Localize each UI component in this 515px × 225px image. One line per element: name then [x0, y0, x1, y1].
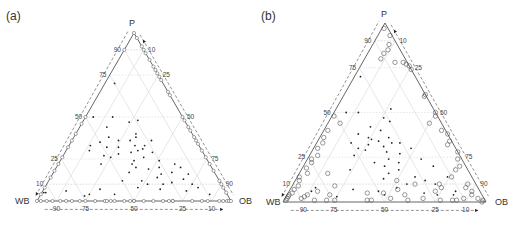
gridline-wb [61, 159, 85, 201]
data-point-edge [142, 48, 145, 51]
data-point-open [439, 185, 443, 189]
tick-label: 90 [300, 206, 308, 213]
data-point [434, 183, 436, 185]
data-point-edge [142, 199, 145, 202]
gridline-wb [309, 157, 334, 202]
data-point [383, 146, 385, 148]
data-point [99, 141, 101, 143]
data-point [185, 190, 187, 192]
data-point [141, 180, 143, 182]
data-point [406, 183, 408, 185]
ternary-panel-b: (b) 102550759010255075909075502510 P WB … [257, 0, 515, 225]
data-point [345, 112, 347, 114]
data-point-edge [162, 199, 165, 202]
data-point [160, 173, 162, 175]
data-point [89, 145, 91, 147]
data-point [106, 126, 108, 128]
data-point-open [388, 196, 392, 200]
ternary-plot-b: 102550759010255075909075502510 [257, 0, 515, 225]
data-point-edge [53, 169, 56, 172]
data-point [388, 158, 390, 160]
data-point [112, 116, 114, 118]
data-point-open [458, 164, 462, 168]
tick-label: 50 [75, 113, 83, 120]
data-point [371, 138, 373, 140]
data-point [352, 189, 354, 191]
data-point [414, 176, 416, 178]
data-point [147, 183, 149, 185]
data-point [389, 121, 391, 123]
arrow-icon [282, 193, 285, 196]
tick-label: 25 [432, 206, 440, 213]
data-point-open [453, 168, 457, 172]
data-point [65, 190, 67, 192]
data-point-edge [78, 199, 81, 202]
data-point-open [387, 42, 391, 46]
data-point-edge [144, 52, 147, 55]
data-point [135, 136, 137, 138]
data-point [180, 167, 182, 169]
data-point-edge [61, 156, 64, 159]
data-point [398, 169, 400, 171]
data-point [357, 112, 359, 114]
data-point [114, 83, 116, 85]
data-point-edge [66, 146, 69, 149]
tick-label: 75 [211, 155, 219, 162]
data-point [398, 162, 400, 164]
data-point-open [393, 60, 397, 64]
data-point-edge [168, 94, 171, 97]
data-point [143, 156, 145, 158]
tick-label: 25 [415, 64, 423, 71]
ternary-plot-a: 102550759010255075909075502510 [0, 0, 257, 225]
data-point [368, 144, 370, 146]
data-point [455, 190, 457, 192]
tick-label: 50 [381, 206, 389, 213]
tick-label: 10 [36, 180, 44, 187]
tick-label: 75 [465, 153, 473, 160]
data-point [137, 150, 139, 152]
data-point [368, 137, 370, 139]
data-point-edge [206, 199, 209, 202]
tick-label: 10 [208, 205, 216, 212]
data-point-open [382, 51, 386, 55]
data-point-edge [84, 115, 87, 118]
data-point-open [421, 196, 425, 200]
data-point [436, 194, 438, 196]
data-point [45, 192, 47, 194]
data-point [135, 167, 137, 169]
data-point [158, 167, 160, 169]
data-point-edge [59, 199, 62, 202]
data-point-open [456, 157, 460, 161]
data-point-edge [105, 199, 108, 202]
data-point [106, 146, 108, 148]
data-point-edge [129, 199, 132, 202]
tick-label: 75 [82, 205, 90, 212]
data-point-edge [220, 183, 223, 186]
data-point [420, 158, 422, 160]
data-point-edge [218, 199, 221, 202]
data-point [103, 155, 105, 157]
tick-label: 50 [440, 109, 448, 116]
data-point [158, 160, 160, 162]
data-point-edge [132, 199, 135, 202]
data-point-open [439, 128, 443, 132]
data-point [110, 156, 112, 158]
gridline-ob [183, 159, 207, 201]
data-point-edge [156, 72, 159, 75]
data-point [453, 194, 455, 196]
data-point [129, 140, 131, 142]
data-point-open [333, 184, 337, 188]
data-point-edge [193, 136, 196, 139]
data-point-edge [123, 48, 126, 51]
gridline-ob [86, 75, 159, 201]
data-point-edge [140, 45, 143, 48]
data-point [360, 76, 362, 78]
data-point-edge [39, 199, 42, 202]
data-point-edge [171, 199, 174, 202]
tick-label: 90 [114, 46, 122, 53]
data-point-edge [181, 115, 184, 118]
data-point-edge [152, 65, 155, 68]
data-point [380, 130, 382, 132]
vertex-label-p: P [129, 18, 135, 28]
data-point [128, 172, 130, 174]
